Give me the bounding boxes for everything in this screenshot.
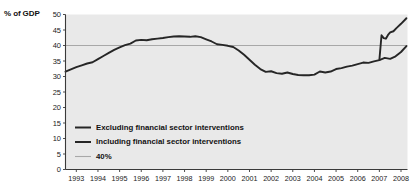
svg-text:1994: 1994 [90,174,106,183]
svg-text:15: 15 [53,119,61,128]
svg-text:10: 10 [53,134,61,143]
svg-text:1993: 1993 [68,174,84,183]
svg-text:2008: 2008 [393,174,409,183]
legend-label: 40% [96,152,112,161]
svg-text:1995: 1995 [112,174,128,183]
svg-text:2004: 2004 [306,174,322,183]
chart-container: % of GDP 05101520253035404550 1993199419… [0,0,411,193]
legend-label: Including financial sector interventions [96,137,242,146]
svg-text:2005: 2005 [328,174,344,183]
svg-text:45: 45 [53,26,61,35]
svg-text:1997: 1997 [155,174,171,183]
svg-text:35: 35 [53,57,61,66]
svg-text:50: 50 [53,10,61,19]
svg-text:2001: 2001 [241,174,257,183]
svg-text:30: 30 [53,72,61,81]
y-axis-ticks: 05101520253035404550 [53,10,66,174]
svg-text:40: 40 [53,41,61,50]
svg-text:1998: 1998 [177,174,193,183]
svg-text:2007: 2007 [371,174,387,183]
svg-text:1996: 1996 [133,174,149,183]
svg-text:2000: 2000 [220,174,236,183]
svg-text:5: 5 [57,150,61,159]
svg-text:2002: 2002 [263,174,279,183]
svg-text:0: 0 [57,165,61,174]
svg-text:1999: 1999 [198,174,214,183]
svg-text:20: 20 [53,103,61,112]
svg-text:25: 25 [53,88,61,97]
legend-label: Excluding financial sector interventions [96,123,244,132]
svg-text:2006: 2006 [350,174,366,183]
svg-text:2003: 2003 [285,174,301,183]
line-chart-plot: 05101520253035404550 1993199419951996199… [0,0,411,193]
x-axis-ticks: 1993199419951996199719981999200020012002… [68,170,409,184]
